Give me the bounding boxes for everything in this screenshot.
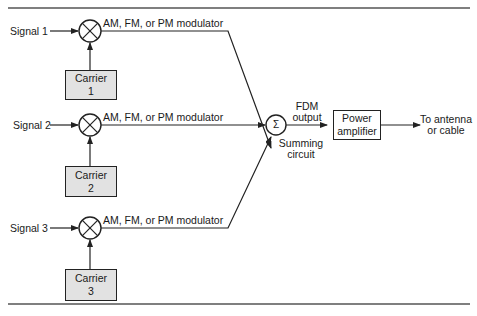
signal-2-label: Signal 2 — [13, 119, 51, 131]
carrier-1-label: Carrier — [75, 72, 107, 85]
signal-1-label: Signal 1 — [10, 25, 48, 37]
mixer-3-icon — [79, 217, 101, 239]
fdm-output-label: FDM output — [289, 101, 325, 123]
carrier-2-label: Carrier — [75, 169, 107, 182]
sigma-symbol: Σ — [270, 119, 282, 131]
power-amplifier-box: Power amplifier — [333, 110, 381, 140]
modulator-3-label: AM, FM, or PM modulator — [103, 214, 223, 226]
carrier-3-number: 3 — [88, 285, 94, 298]
amplifier-line2: amplifier — [337, 125, 377, 138]
fdm-output-line2: output — [289, 112, 325, 123]
summing-circuit-label: Summing circuit — [276, 138, 326, 160]
mixer-2-icon — [79, 114, 101, 136]
carrier-2-number: 2 — [88, 182, 94, 195]
destination-label: To antenna or cable — [418, 114, 474, 136]
signal-3-label: Signal 3 — [10, 222, 48, 234]
carrier-3-label: Carrier — [75, 272, 107, 285]
carrier-2-box: Carrier 2 — [65, 166, 117, 197]
carrier-1-box: Carrier 1 — [65, 70, 117, 100]
destination-line2: or cable — [418, 125, 474, 136]
mixer-1-icon — [79, 20, 101, 42]
carrier-1-number: 1 — [88, 85, 94, 98]
summing-label-line2: circuit — [276, 149, 326, 160]
modulator-2-label: AM, FM, or PM modulator — [103, 111, 223, 123]
carrier-3-box: Carrier 3 — [65, 269, 117, 301]
modulator-1-label: AM, FM, or PM modulator — [103, 17, 223, 29]
amplifier-line1: Power — [342, 112, 372, 125]
